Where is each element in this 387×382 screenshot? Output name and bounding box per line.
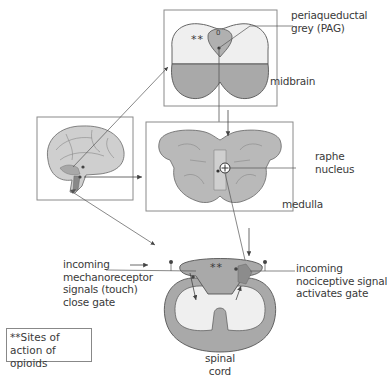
medulla-panel: [146, 110, 296, 260]
spinal-cord-label: spinal cord: [205, 352, 235, 377]
opioid-mark-midbrain: **: [191, 34, 204, 47]
legend-opioid-sites: **Sites of action of opioids: [6, 328, 92, 362]
midbrain-label: midbrain: [270, 75, 315, 88]
medulla-label: medulla: [282, 198, 323, 211]
brain-panel: [37, 117, 133, 200]
opioid-mark-spinal: **: [210, 262, 223, 275]
nociceptive-label: incoming nociceptive signal activates ga…: [296, 262, 387, 300]
mechanoreceptor-label: incoming mechanoreceptor signals (touch)…: [63, 258, 153, 308]
raphe-nucleus-label: raphe nucleus: [315, 150, 354, 175]
pag-label: periaqueductal grey (PAG): [291, 9, 367, 34]
pag-mark: 0: [216, 27, 220, 40]
